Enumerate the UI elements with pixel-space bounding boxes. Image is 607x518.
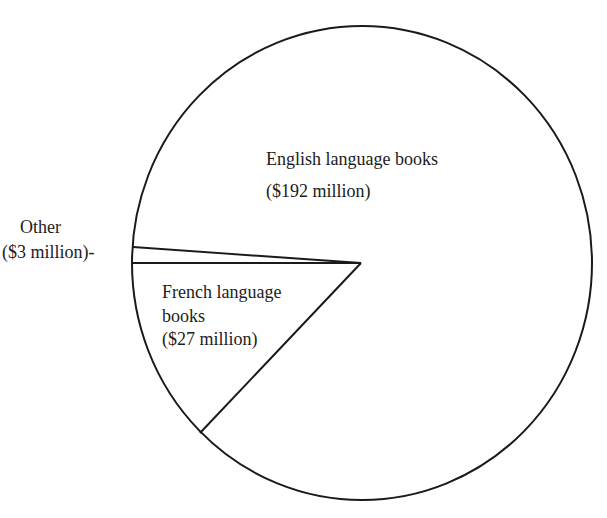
french-slice-value: ($27 million) [162,330,258,348]
other-slice-label: Other [20,218,61,236]
english-slice-label: English language books [266,150,438,168]
french-slice-label-cont: books [162,307,205,325]
french-slice-label: French language [162,283,281,301]
english-slice-value: ($192 million) [266,182,371,200]
other-slice-value: ($3 million)- [2,243,95,261]
